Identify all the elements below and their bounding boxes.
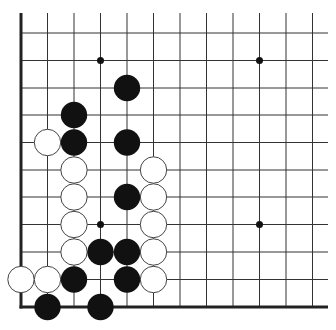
white-stone[interactable] [140, 184, 166, 210]
white-stone[interactable] [140, 239, 166, 265]
white-stone[interactable] [140, 157, 166, 183]
black-stone[interactable] [114, 75, 140, 101]
black-stone[interactable] [114, 239, 140, 265]
black-stone[interactable] [87, 294, 113, 320]
black-stone[interactable] [34, 294, 60, 320]
white-stone[interactable] [61, 239, 87, 265]
white-stone[interactable] [61, 211, 87, 237]
go-board[interactable] [0, 0, 336, 330]
white-stone[interactable] [140, 266, 166, 292]
star-point-icon [256, 57, 263, 64]
white-stone[interactable] [34, 129, 60, 155]
black-stone[interactable] [61, 102, 87, 128]
white-stone[interactable] [8, 266, 34, 292]
black-stone[interactable] [61, 266, 87, 292]
black-stone[interactable] [114, 184, 140, 210]
black-stone[interactable] [87, 239, 113, 265]
white-stone[interactable] [61, 157, 87, 183]
star-point-icon [97, 57, 104, 64]
black-stone[interactable] [61, 129, 87, 155]
white-stone[interactable] [34, 266, 60, 292]
white-stone[interactable] [61, 184, 87, 210]
black-stone[interactable] [114, 266, 140, 292]
star-point-icon [256, 221, 263, 228]
white-stone[interactable] [140, 211, 166, 237]
black-stone[interactable] [114, 129, 140, 155]
star-point-icon [97, 221, 104, 228]
